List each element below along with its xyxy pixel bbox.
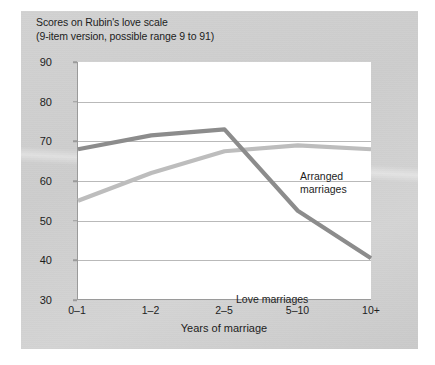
y-tick-mark-80 [73, 101, 77, 103]
x-tick-label-0: 0–1 [68, 304, 86, 316]
x-tick-label-1: 1–2 [142, 304, 160, 316]
x-tick-label-4: 10+ [362, 304, 380, 316]
x-tick-label-2: 2–5 [215, 304, 233, 316]
x-axis-line [78, 299, 371, 301]
chart-title-line-1: Scores on Rubin's love scale [36, 16, 336, 30]
plot-inner: Arranged marriages Love marriages [78, 62, 371, 300]
chart-title-line-2: (9-item version, possible range 9 to 91) [36, 30, 336, 44]
x-tick-label-3: 5–10 [286, 304, 309, 316]
y-tick-label-60: 60 [12, 175, 52, 187]
chart-title: Scores on Rubin's love scale (9-item ver… [36, 16, 336, 43]
y-tick-label-50: 50 [12, 215, 52, 227]
annotation-arranged-line-1: Arranged [300, 170, 343, 182]
y-tick-label-70: 70 [12, 135, 52, 147]
y-tick-label-40: 40 [12, 254, 52, 266]
y-tick-mark-30 [73, 299, 77, 301]
y-tick-label-80: 80 [12, 96, 52, 108]
y-tick-mark-50 [73, 220, 77, 222]
plot-area: Arranged marriages Love marriages [77, 62, 371, 300]
figure-root: Scores on Rubin's love scale (9-item ver… [0, 0, 435, 365]
y-tick-mark-60 [73, 180, 77, 182]
y-tick-mark-90 [73, 61, 77, 63]
y-tick-label-30: 30 [12, 294, 52, 306]
y-tick-mark-40 [73, 260, 77, 262]
y-tick-mark-70 [73, 141, 77, 143]
annotation-arranged-line-2: marriages [300, 183, 347, 195]
annotation-arranged-marriages: Arranged marriages [300, 170, 347, 195]
y-tick-label-90: 90 [12, 56, 52, 68]
x-axis-title: Years of marriage [77, 322, 371, 334]
